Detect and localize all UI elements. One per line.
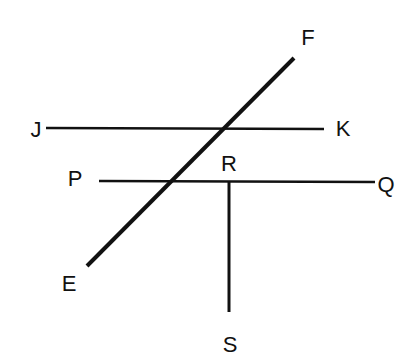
label-point-q: Q <box>377 172 394 197</box>
point-labels: FJKPRQES <box>31 25 395 357</box>
label-point-p: P <box>68 166 83 191</box>
segment-jk <box>46 128 324 129</box>
label-point-r: R <box>221 151 237 176</box>
label-point-k: K <box>336 116 351 141</box>
line-segments <box>46 58 375 312</box>
label-point-j: J <box>31 117 42 142</box>
geometry-diagram: FJKPRQES <box>0 0 412 363</box>
label-point-e: E <box>62 271 77 296</box>
segment-ef <box>87 58 294 266</box>
label-point-s: S <box>223 332 238 357</box>
segment-pq <box>99 181 375 182</box>
label-point-f: F <box>301 25 314 50</box>
